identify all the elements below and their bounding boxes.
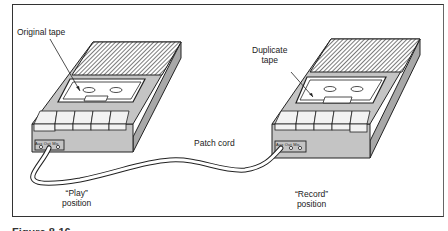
play-label-line1: “Play” [62,188,91,198]
left-control-keys [34,111,129,131]
record-label-line1: “Record” [295,189,328,199]
record-label-line2: position [295,199,328,209]
duplicate-tape-label-line1: Duplicate [252,45,287,55]
figure-caption-truncated: Figure 8-16 ... [12,225,83,231]
left-jack-labels: Aux Out Mic [35,141,59,146]
play-label-line2: position [62,198,91,208]
patch-cord [33,148,281,183]
original-tape-label: Original tape [17,27,65,37]
duplicate-tape-label: Duplicate tape [252,45,287,65]
record-position-label: “Record” position [295,189,328,209]
right-out-label: Out [285,142,292,147]
left-speaker-grille [72,42,181,75]
left-out-label: Out [44,141,51,146]
play-position-label: “Play” position [62,188,91,208]
left-aux-label: Aux [35,141,43,146]
patch-cord-label: Patch cord [194,138,235,148]
right-aux-label: Aux [276,142,284,147]
right-control-keys [275,111,370,132]
right-speaker-grille [310,39,420,72]
right-jack-labels: Aux Out Mic [276,142,300,147]
right-mic-label: Mic [293,142,300,147]
right-cassette-recorder [272,39,420,158]
duplicate-tape-label-line2: tape [252,55,287,65]
left-cassette-recorder [32,42,181,152]
left-mic-label: Mic [52,141,59,146]
